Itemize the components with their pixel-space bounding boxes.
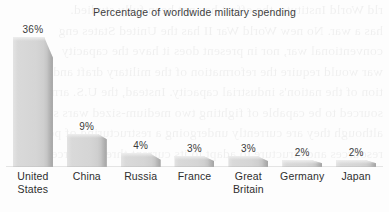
- bar-slot: 2%: [329, 26, 383, 167]
- category-label: France: [168, 170, 222, 183]
- bar-value-label: 3%: [174, 143, 214, 154]
- bar-slot: 3%: [168, 26, 222, 167]
- category-label-slot: France: [168, 170, 222, 183]
- category-label-slot: Germany: [275, 170, 329, 183]
- bar-value-label: 2%: [336, 147, 376, 158]
- bar-slot: 9%: [60, 26, 114, 167]
- category-label: Germany: [275, 170, 329, 183]
- bar: [67, 134, 107, 167]
- category-label-slot: Japan: [329, 170, 383, 183]
- bar-slot: 2%: [275, 26, 329, 167]
- bar-value-label: 2%: [282, 147, 322, 158]
- category-label-slot: United States: [6, 170, 60, 196]
- category-axis-labels: United StatesChinaRussiaFranceGreat Brit…: [6, 170, 383, 210]
- bar-slot: 36%: [6, 26, 60, 167]
- plot-area: 36%9%4%3%3%2%2%: [6, 26, 383, 167]
- bar: [13, 37, 53, 167]
- bar-slot: 3%: [221, 26, 275, 167]
- category-label-slot: Great Britain: [221, 170, 275, 196]
- category-label-slot: Russia: [114, 170, 168, 183]
- bar-value-label: 4%: [121, 140, 161, 151]
- axis-baseline: [6, 166, 383, 167]
- bar-value-label: 9%: [67, 121, 107, 132]
- category-label-slot: China: [60, 170, 114, 183]
- category-label: Great Britain: [221, 170, 275, 196]
- bar-value-label: 3%: [228, 143, 268, 154]
- category-label: China: [60, 170, 114, 183]
- bar-value-label: 36%: [13, 24, 53, 35]
- bar-chart: Percentage of worldwide military spendin…: [0, 0, 389, 212]
- category-label: Russia: [114, 170, 168, 183]
- chart-title: Percentage of worldwide military spendin…: [0, 6, 389, 18]
- chart-page: rld World Institute, the effort has not …: [0, 0, 389, 212]
- category-label: United States: [6, 170, 60, 196]
- category-label: Japan: [329, 170, 383, 183]
- bar: [121, 153, 161, 167]
- bar-slot: 4%: [114, 26, 168, 167]
